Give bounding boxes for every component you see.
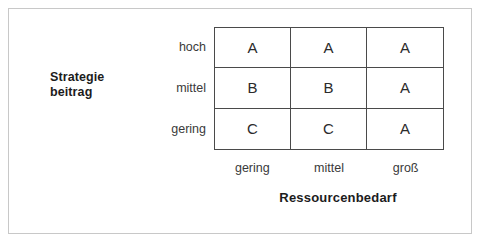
- x-axis-tick-label-gross: groß: [367, 158, 444, 178]
- matrix-cell-r0c0: A: [215, 28, 291, 68]
- matrix-cell-r1c1: B: [291, 68, 367, 108]
- matrix-cell-r1c2: A: [367, 68, 443, 108]
- matrix-cell-r2c0: C: [215, 109, 291, 149]
- matrix-cell-r2c2: A: [367, 109, 443, 149]
- x-axis-tick-label-gering: gering: [214, 158, 291, 178]
- y-axis-tick-labels: hoch mittel gering: [140, 27, 206, 150]
- matrix-cell-r0c1: A: [291, 28, 367, 68]
- matrix-cell-r0c2: A: [367, 28, 443, 68]
- y-axis-tick-label-mittel: mittel: [140, 68, 206, 109]
- y-axis-title-line-2: beitrag: [50, 85, 146, 100]
- y-axis-title: Strategie beitrag: [50, 70, 146, 100]
- y-axis-tick-label-gering: gering: [140, 109, 206, 150]
- x-axis-tick-labels: gering mittel groß: [214, 158, 444, 178]
- matrix-cell-r1c0: B: [215, 68, 291, 108]
- x-axis-tick-label-mittel: mittel: [291, 158, 368, 178]
- y-axis-title-line-1: Strategie: [50, 70, 146, 85]
- x-axis-title: Ressourcenbedarf: [214, 190, 462, 205]
- matrix-diagram-screenshot: Strategie beitrag hoch mittel gering A A…: [0, 0, 485, 245]
- matrix-grid: A A A B B A C C A: [214, 27, 444, 150]
- matrix-cell-r2c1: C: [291, 109, 367, 149]
- y-axis-tick-label-hoch: hoch: [140, 27, 206, 68]
